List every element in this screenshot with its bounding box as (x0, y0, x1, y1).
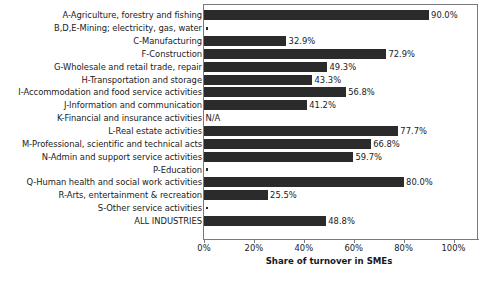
x-axis-title: Share of turnover in SMEs (203, 256, 455, 266)
bar-track: 66.8% (204, 137, 478, 150)
bar (204, 152, 353, 162)
bar-value-label: 48.8% (328, 217, 355, 225)
bar-track: 48.8% (204, 215, 478, 228)
bar-value-label: 41.2% (309, 101, 336, 109)
category-label: F-Construction (142, 50, 202, 58)
chart-row: R-Arts, entertainment & recreation25.5% (0, 189, 489, 202)
bar-track: 41.2% (204, 99, 478, 112)
category-label: P-Education (153, 165, 202, 173)
chart-row: F-Construction72.9% (0, 48, 489, 61)
category-label: N-Admin and support service activities (42, 153, 202, 161)
chart-row: A-Agriculture, forestry and fishing90.0% (0, 9, 489, 22)
bar-track: 25.5% (204, 189, 478, 202)
bar-value-label: 49.3% (330, 63, 357, 71)
bar (204, 100, 307, 110)
bar-value-label: 80.0% (406, 178, 433, 186)
bar-track (204, 22, 478, 35)
x-axis-tick (404, 239, 405, 243)
chart-row: N-Admin and support service activities59… (0, 150, 489, 163)
bar-track: 32.9% (204, 35, 478, 48)
bar-value-label: 32.9% (289, 37, 316, 45)
bar (204, 126, 398, 136)
bar-suppressed-marker (206, 168, 209, 171)
x-axis-tick-label: 20% (245, 244, 264, 252)
bar (204, 62, 327, 72)
category-label: S-Other service activities (98, 204, 202, 212)
category-label: C-Manufacturing (133, 37, 202, 45)
category-label: Q-Human health and social work activitie… (27, 178, 202, 186)
category-label: ALL INDUSTRIES (134, 217, 202, 225)
bar (204, 216, 326, 226)
category-label: L-Real estate activities (108, 127, 202, 135)
bar-chart: A-Agriculture, forestry and fishing90.0%… (0, 0, 489, 281)
category-label: A-Agriculture, forestry and fishing (62, 11, 202, 19)
bar (204, 49, 386, 59)
bar (204, 75, 312, 85)
bar (204, 139, 371, 149)
x-axis-tick (204, 239, 205, 243)
chart-row: H-Transportation and storage43.3% (0, 73, 489, 86)
chart-row: B,D,E-Mining; electricity, gas, water (0, 22, 489, 35)
bar-track: 56.8% (204, 86, 478, 99)
bar (204, 87, 346, 97)
category-label: B,D,E-Mining; electricity, gas, water (54, 24, 202, 32)
bar-track: 80.0% (204, 176, 478, 189)
chart-row: P-Education (0, 163, 489, 176)
x-axis-tick (254, 239, 255, 243)
bar-track: 77.7% (204, 125, 478, 138)
category-label: R-Arts, entertainment & recreation (58, 191, 202, 199)
x-axis-tick-label: 100% (442, 244, 466, 252)
bar-track: N/A (204, 112, 478, 125)
x-axis-tick-label: 40% (294, 244, 313, 252)
chart-row: G-Wholesale and retail trade, repair49.3… (0, 60, 489, 73)
bar (204, 36, 286, 46)
category-label: H-Transportation and storage (81, 75, 202, 83)
x-axis-tick-label: 80% (394, 244, 413, 252)
chart-row: M-Professional, scientific and technical… (0, 137, 489, 150)
bar-track: 49.3% (204, 60, 478, 73)
x-axis-tick (454, 239, 455, 243)
chart-row: L-Real estate activities77.7% (0, 125, 489, 138)
chart-row: K-Financial and insurance activitiesN/A (0, 112, 489, 125)
bar-suppressed-marker (206, 207, 209, 210)
chart-row: S-Other service activities (0, 202, 489, 215)
bar-track (204, 163, 478, 176)
bar-track (204, 202, 478, 215)
bar-value-label: 66.8% (373, 140, 400, 148)
chart-rows: A-Agriculture, forestry and fishing90.0%… (0, 9, 489, 240)
category-label: I-Accommodation and food service activit… (18, 88, 202, 96)
x-axis-tick (354, 239, 355, 243)
category-label: G-Wholesale and retail trade, repair (54, 63, 202, 71)
bar-value-label: N/A (206, 114, 221, 122)
x-axis-tick-label: 60% (344, 244, 363, 252)
bar-track: 43.3% (204, 73, 478, 86)
category-label: M-Professional, scientific and technical… (22, 140, 202, 148)
bar-value-label: 25.5% (270, 191, 297, 199)
chart-row: C-Manufacturing32.9% (0, 35, 489, 48)
category-label: K-Financial and insurance activities (57, 114, 202, 122)
bar-value-label: 43.3% (315, 75, 342, 83)
bar-value-label: 59.7% (355, 153, 382, 161)
bar-track: 59.7% (204, 150, 478, 163)
category-label: J-Information and communication (64, 101, 202, 109)
chart-row: ALL INDUSTRIES48.8% (0, 215, 489, 228)
x-axis: 0%20%40%60%80%100% Share of turnover in … (203, 239, 479, 281)
bar-value-label: 56.8% (348, 88, 375, 96)
chart-row: J-Information and communication41.2% (0, 99, 489, 112)
x-axis-tick (304, 239, 305, 243)
bar (204, 177, 404, 187)
x-axis-line (203, 239, 479, 240)
bar (204, 10, 429, 20)
bar-value-label: 77.7% (400, 127, 427, 135)
bar-value-label: 72.9% (388, 50, 415, 58)
chart-row: I-Accommodation and food service activit… (0, 86, 489, 99)
bar (204, 190, 268, 200)
bar-track: 72.9% (204, 48, 478, 61)
bar-track: 90.0% (204, 9, 478, 22)
chart-row: Q-Human health and social work activitie… (0, 176, 489, 189)
bar-value-label: 90.0% (431, 11, 458, 19)
bar-suppressed-marker (206, 27, 209, 30)
x-axis-tick-label: 0% (197, 244, 210, 252)
